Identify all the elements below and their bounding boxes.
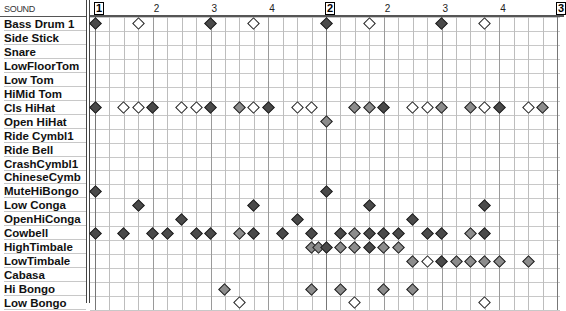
note-diamond-icon[interactable] [262, 101, 275, 114]
note-diamond-icon[interactable] [118, 227, 131, 240]
note-diamond-icon[interactable] [89, 185, 102, 198]
note-diamond-icon[interactable] [305, 283, 318, 296]
note-diamond-icon[interactable] [204, 18, 217, 31]
note-diamond-icon[interactable] [435, 101, 448, 114]
note-diamond-icon[interactable] [146, 227, 159, 240]
note-diamond-icon[interactable] [320, 241, 333, 254]
instrument-label[interactable]: Low Bongo [4, 296, 86, 310]
note-diamond-icon[interactable] [305, 101, 318, 114]
note-diamond-icon[interactable] [435, 227, 448, 240]
measure-number[interactable]: 3 [556, 2, 566, 15]
instrument-label[interactable]: Cls HiHat [4, 101, 86, 115]
note-diamond-icon[interactable] [204, 101, 217, 114]
note-diamond-icon[interactable] [132, 18, 145, 31]
instrument-label[interactable]: Ride Cymbl1 [4, 129, 86, 143]
note-diamond-icon[interactable] [175, 213, 188, 226]
note-diamond-icon[interactable] [233, 227, 246, 240]
note-diamond-icon[interactable] [247, 101, 260, 114]
instrument-label[interactable]: HighTimbale [4, 240, 86, 254]
instrument-label[interactable]: MuteHiBongo [4, 184, 86, 198]
note-diamond-icon[interactable] [479, 199, 492, 212]
note-diamond-icon[interactable] [435, 18, 448, 31]
note-diamond-icon[interactable] [247, 199, 260, 212]
note-diamond-icon[interactable] [334, 283, 347, 296]
note-diamond-icon[interactable] [247, 18, 260, 31]
measure-number[interactable]: 2 [325, 2, 335, 15]
instrument-label[interactable]: HiMid Tom [4, 87, 86, 101]
note-diamond-icon[interactable] [450, 255, 463, 268]
note-diamond-icon[interactable] [334, 241, 347, 254]
note-diamond-icon[interactable] [536, 101, 549, 114]
note-diamond-icon[interactable] [320, 115, 333, 128]
note-diamond-icon[interactable] [377, 101, 390, 114]
instrument-label[interactable]: CrashCymbl1 [4, 157, 86, 171]
note-diamond-icon[interactable] [132, 101, 145, 114]
panel-divider[interactable] [86, 0, 87, 303]
note-diamond-icon[interactable] [363, 101, 376, 114]
note-diamond-icon[interactable] [320, 185, 333, 198]
note-diamond-icon[interactable] [464, 255, 477, 268]
instrument-label[interactable]: Ride Bell [4, 143, 86, 157]
note-diamond-icon[interactable] [132, 199, 145, 212]
note-diamond-icon[interactable] [349, 227, 362, 240]
instrument-label[interactable]: LowTimbale [4, 254, 86, 268]
note-diamond-icon[interactable] [349, 101, 362, 114]
note-diamond-icon[interactable] [175, 101, 188, 114]
measure-number[interactable]: 1 [94, 2, 104, 15]
note-diamond-icon[interactable] [522, 101, 535, 114]
note-diamond-icon[interactable] [161, 227, 174, 240]
note-diamond-icon[interactable] [406, 255, 419, 268]
instrument-label[interactable]: LowFloorTom [4, 59, 86, 73]
note-diamond-icon[interactable] [89, 101, 102, 114]
note-diamond-icon[interactable] [479, 18, 492, 31]
note-diamond-icon[interactable] [233, 297, 246, 310]
note-diamond-icon[interactable] [377, 283, 390, 296]
note-diamond-icon[interactable] [493, 255, 506, 268]
note-diamond-icon[interactable] [479, 227, 492, 240]
note-diamond-icon[interactable] [435, 255, 448, 268]
note-diamond-icon[interactable] [349, 297, 362, 310]
note-diamond-icon[interactable] [377, 241, 390, 254]
instrument-label[interactable]: Snare [4, 45, 86, 59]
note-diamond-icon[interactable] [291, 213, 304, 226]
instrument-label[interactable]: ChineseCymb [4, 170, 86, 184]
instrument-label[interactable]: Low Tom [4, 73, 86, 87]
instrument-label[interactable]: Open HiHat [4, 115, 86, 129]
instrument-label[interactable]: Cabasa [4, 268, 86, 282]
drum-grid[interactable]: 123234234 [90, 0, 564, 303]
note-diamond-icon[interactable] [421, 255, 434, 268]
instrument-label[interactable]: Cowbell [4, 226, 86, 240]
note-diamond-icon[interactable] [392, 227, 405, 240]
note-diamond-icon[interactable] [464, 101, 477, 114]
note-diamond-icon[interactable] [89, 227, 102, 240]
note-diamond-icon[interactable] [219, 283, 232, 296]
instrument-label[interactable]: Low Conga [4, 198, 86, 212]
note-diamond-icon[interactable] [190, 101, 203, 114]
note-diamond-icon[interactable] [320, 18, 333, 31]
note-diamond-icon[interactable] [305, 227, 318, 240]
note-diamond-icon[interactable] [349, 241, 362, 254]
note-diamond-icon[interactable] [89, 18, 102, 31]
note-diamond-icon[interactable] [247, 227, 260, 240]
note-diamond-icon[interactable] [406, 213, 419, 226]
instrument-label[interactable]: Hi Bongo [4, 282, 86, 296]
instrument-label[interactable]: Bass Drum 1 [4, 17, 86, 31]
note-diamond-icon[interactable] [377, 227, 390, 240]
note-diamond-icon[interactable] [118, 101, 131, 114]
note-diamond-icon[interactable] [363, 18, 376, 31]
instrument-label[interactable]: Side Stick [4, 31, 86, 45]
note-diamond-icon[interactable] [363, 227, 376, 240]
note-diamond-icon[interactable] [334, 227, 347, 240]
note-diamond-icon[interactable] [146, 101, 159, 114]
note-diamond-icon[interactable] [479, 297, 492, 310]
note-diamond-icon[interactable] [421, 227, 434, 240]
note-diamond-icon[interactable] [392, 241, 405, 254]
note-diamond-icon[interactable] [493, 101, 506, 114]
note-diamond-icon[interactable] [421, 101, 434, 114]
note-diamond-icon[interactable] [522, 255, 535, 268]
note-diamond-icon[interactable] [190, 227, 203, 240]
note-diamond-icon[interactable] [233, 101, 246, 114]
note-diamond-icon[interactable] [363, 199, 376, 212]
instrument-label[interactable]: OpenHiConga [4, 212, 86, 226]
note-diamond-icon[interactable] [406, 283, 419, 296]
